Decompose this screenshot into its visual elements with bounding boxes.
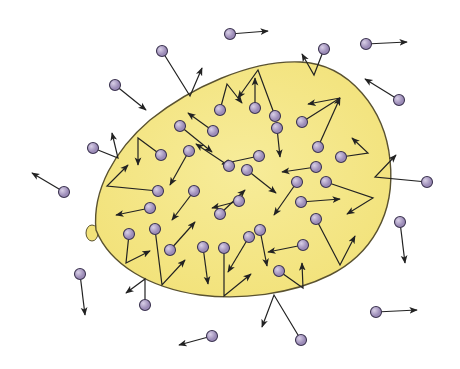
gas-molecule xyxy=(321,177,332,188)
gas-molecule xyxy=(313,142,324,153)
gas-molecule xyxy=(244,232,255,243)
gas-molecule xyxy=(311,214,322,225)
balloon-body xyxy=(96,62,391,297)
gas-molecule xyxy=(145,203,156,214)
gas-molecule xyxy=(124,229,135,240)
gas-molecule xyxy=(150,224,161,235)
gas-molecule xyxy=(153,186,164,197)
gas-molecule xyxy=(296,335,307,346)
gas-molecule xyxy=(215,105,226,116)
gas-molecule xyxy=(207,331,218,342)
gas-molecule xyxy=(371,307,382,318)
gas-molecule xyxy=(140,300,151,311)
gas-molecule xyxy=(184,146,195,157)
gas-molecule xyxy=(336,152,347,163)
gas-molecule xyxy=(274,266,285,277)
velocity-arrow xyxy=(376,310,417,312)
gas-molecule xyxy=(165,245,176,256)
gas-molecule xyxy=(395,217,406,228)
gas-molecule xyxy=(361,39,372,50)
velocity-arrow xyxy=(262,295,301,340)
gas-molecule xyxy=(319,44,330,55)
gas-molecule xyxy=(311,162,322,173)
gas-molecule xyxy=(270,111,281,122)
gas-molecule xyxy=(250,103,261,114)
gas-molecule xyxy=(175,121,186,132)
gas-molecule xyxy=(255,225,266,236)
diagram-canvas xyxy=(0,0,460,369)
velocity-arrow xyxy=(400,222,405,263)
gas-molecule xyxy=(157,46,168,57)
gas-molecule xyxy=(198,242,209,253)
gas-molecule xyxy=(208,126,219,137)
gas-molecule xyxy=(297,117,308,128)
balloon-gas-diagram: Gas molecules colliding with balloon wal… xyxy=(0,0,460,369)
gas-molecule xyxy=(422,177,433,188)
gas-molecule xyxy=(242,165,253,176)
gas-molecule xyxy=(234,196,245,207)
gas-molecule xyxy=(219,243,230,254)
velocity-arrow xyxy=(80,274,85,315)
gas-molecule xyxy=(110,80,121,91)
velocity-arrow xyxy=(366,42,407,44)
gas-molecule xyxy=(272,123,283,134)
gas-molecule xyxy=(215,209,226,220)
gas-molecule xyxy=(59,187,70,198)
gas-molecule xyxy=(292,177,303,188)
gas-molecule xyxy=(298,240,309,251)
gas-molecule xyxy=(225,29,236,40)
gas-molecule xyxy=(75,269,86,280)
gas-molecule xyxy=(296,197,307,208)
gas-molecule xyxy=(156,150,167,161)
gas-molecule xyxy=(254,151,265,162)
gas-molecule xyxy=(88,143,99,154)
gas-molecule xyxy=(224,161,235,172)
gas-molecule xyxy=(189,186,200,197)
gas-molecule xyxy=(394,95,405,106)
